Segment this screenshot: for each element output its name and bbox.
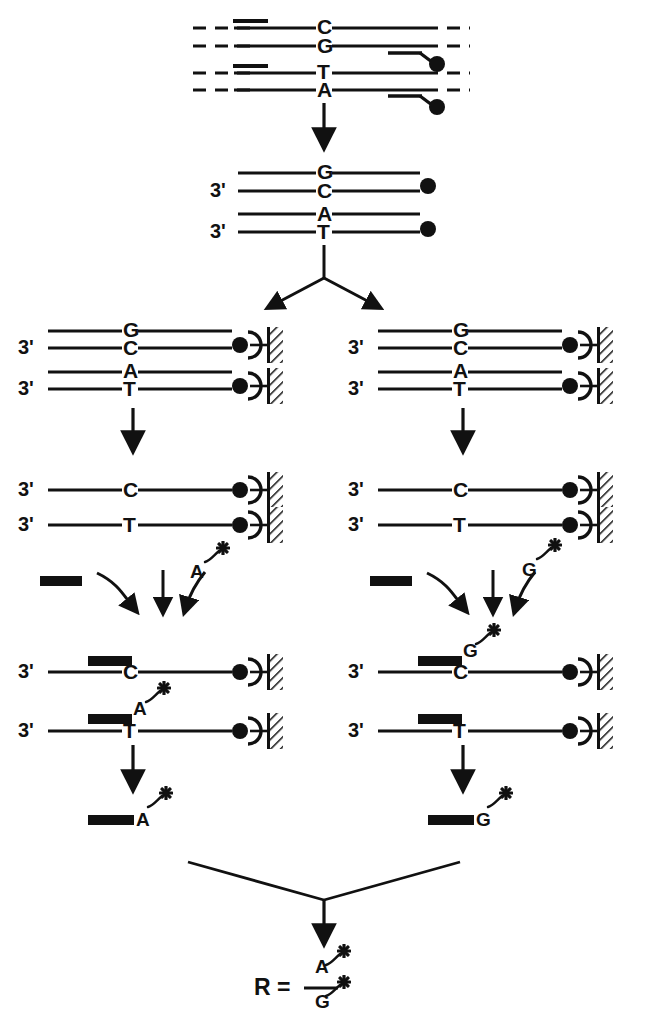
prime-p3r-a: 3' xyxy=(348,337,364,357)
biotin-icon xyxy=(232,723,248,739)
label-star-icon xyxy=(337,975,351,989)
biotin-icon xyxy=(232,664,248,680)
biotin-icon xyxy=(232,482,248,498)
biotin-icon xyxy=(562,337,578,353)
base-p3r-a-lower: C xyxy=(453,337,468,358)
biotin-icon xyxy=(232,337,248,353)
prime-p3l-a: 3' xyxy=(18,337,34,357)
prime-p6r-b: 3' xyxy=(348,720,364,740)
biotin-icon xyxy=(420,178,436,194)
prime-p6l-b: 3' xyxy=(18,720,34,740)
biotin-icon xyxy=(429,99,445,115)
incorporated-base-right: G xyxy=(463,641,478,660)
prime-p6l-a: 3' xyxy=(18,661,34,681)
prime-p4l-a: 3' xyxy=(18,479,34,499)
label-star-icon xyxy=(159,786,173,800)
base-p6l-b: T xyxy=(123,720,136,741)
base-p6r-b: T xyxy=(453,720,466,741)
prime-p4r-a: 3' xyxy=(348,479,364,499)
base-p1-top-lower: G xyxy=(317,35,333,56)
biotin-icon xyxy=(429,56,445,72)
biotin-icon xyxy=(420,221,436,237)
biotin-icon xyxy=(562,517,578,533)
base-p3r-b-lower: T xyxy=(453,378,466,399)
prime-p3r-b: 3' xyxy=(348,378,364,398)
result-denominator: G xyxy=(315,992,330,1011)
primer-bar xyxy=(40,576,82,586)
eluted-primer-bar xyxy=(88,815,134,825)
base-p6r-a: C xyxy=(453,661,468,682)
label-star-icon xyxy=(337,944,351,958)
label-star-icon xyxy=(487,623,501,637)
label-star-icon xyxy=(548,538,562,552)
biotin-icon xyxy=(562,378,578,394)
biotin-icon xyxy=(562,664,578,680)
minisequencing-diagram xyxy=(0,0,651,1019)
biotin-icon xyxy=(562,482,578,498)
base-p2-a-lower: C xyxy=(317,180,332,201)
base-p3l-a-lower: C xyxy=(123,337,138,358)
prime-p3l-b: 3' xyxy=(18,378,34,398)
result-numerator: A xyxy=(315,957,329,976)
base-p2-b-lower: T xyxy=(317,221,330,242)
biotin-icon xyxy=(232,378,248,394)
base-p4r-a: C xyxy=(453,479,468,500)
biotin-icon xyxy=(562,723,578,739)
base-p4l-b: T xyxy=(123,514,136,535)
biotin-icon xyxy=(232,517,248,533)
prime-p2-a: 3' xyxy=(210,180,226,200)
label-star-icon xyxy=(216,541,230,555)
base-p1-bot-lower: A xyxy=(317,79,332,100)
prime-p4r-b: 3' xyxy=(348,514,364,534)
eluted-base-left: A xyxy=(136,810,150,829)
label-star-icon xyxy=(499,786,513,800)
eluted-base-right: G xyxy=(476,810,491,829)
prime-p2-b: 3' xyxy=(210,221,226,241)
incorporated-base-left: A xyxy=(133,699,147,718)
prime-p6r-a: 3' xyxy=(348,661,364,681)
label-star-icon xyxy=(157,681,171,695)
base-p4r-b: T xyxy=(453,514,466,535)
reagent-nucleotide-right: G xyxy=(522,560,537,579)
prime-p4l-b: 3' xyxy=(18,514,34,534)
result-equals: = xyxy=(277,976,290,999)
canvas-background xyxy=(0,0,651,1019)
reagent-nucleotide-left: A xyxy=(190,562,204,581)
base-p4l-a: C xyxy=(123,479,138,500)
eluted-primer-bar xyxy=(428,815,474,825)
primer-bar xyxy=(370,576,412,586)
result-r-symbol: R xyxy=(254,976,271,999)
base-p6l-a: C xyxy=(123,661,138,682)
base-p3l-b-lower: T xyxy=(123,378,136,399)
